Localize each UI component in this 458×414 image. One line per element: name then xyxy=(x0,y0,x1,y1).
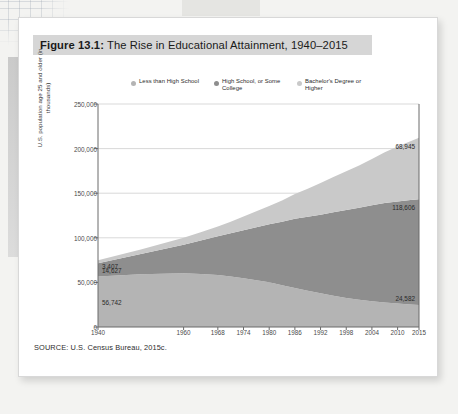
x-tick-label: 1998 xyxy=(334,329,358,336)
x-tick-label: 1968 xyxy=(206,329,230,336)
y-tick-label: 150,000 xyxy=(57,190,97,197)
x-tick-label: 2015 xyxy=(407,329,431,336)
x-tick-label: 2010 xyxy=(386,329,410,336)
y-tick-label: 250,000 xyxy=(57,101,97,108)
source-note: SOURCE: U.S. Census Bureau, 2015c. xyxy=(34,343,167,352)
x-tick-label: 1940 xyxy=(86,329,110,336)
x-tick-label: 1992 xyxy=(309,329,333,336)
data-value-label: 56,742 xyxy=(102,298,122,305)
scan-artifact xyxy=(182,0,260,16)
figure-page-card: Figure 13.1: The Rise in Educational Att… xyxy=(18,17,438,377)
y-axis-label: U.S. population age 25 and older (in tho… xyxy=(36,38,51,158)
data-value-label: 24,582 xyxy=(395,295,415,302)
x-tick-label: 1974 xyxy=(232,329,256,336)
y-axis-ticks: 050,000100,000150,000200,000250,000 xyxy=(55,18,97,376)
y-tick-label: 50,000 xyxy=(57,279,97,286)
data-value-label: 14,627 xyxy=(102,266,122,273)
data-value-label: 68,945 xyxy=(395,142,415,149)
x-tick-label: 2004 xyxy=(360,329,384,336)
data-value-label: 118,606 xyxy=(392,204,415,211)
y-tick-label: 100,000 xyxy=(57,234,97,241)
y-tick-label: 200,000 xyxy=(57,145,97,152)
x-tick-label: 1980 xyxy=(257,329,281,336)
x-tick-label: 1960 xyxy=(172,329,196,336)
x-axis-ticks: 1940196019681974198019861992199820042010… xyxy=(19,329,437,343)
x-tick-label: 1986 xyxy=(283,329,307,336)
